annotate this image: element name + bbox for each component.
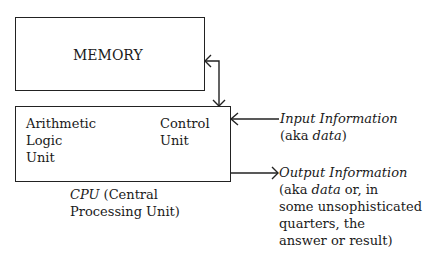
output-line1-post: or, in [341,182,379,197]
memory-box: MEMORY [15,17,205,91]
memory-cpu-connector [205,61,219,106]
control-unit-line2: Unit [160,133,189,149]
output-line1-pre: (aka [279,182,312,197]
alu-label-line2: Logic [26,133,62,149]
alu-label-line1: Arithmetic [26,116,96,132]
cpu-caption: CPU (Central [70,187,158,203]
input-note-italic: data [313,128,342,143]
input-title: Input Information [280,111,398,127]
output-line4: answer or result) [279,233,393,249]
cpu-caption-rest: (Central [99,187,158,202]
alu-label-line3: Unit [26,150,55,166]
output-line1: (aka data or, in [279,182,378,198]
input-note: (aka data) [280,128,347,144]
output-line1-italic: data [312,182,341,197]
output-line2: some unsophisticated [279,199,422,215]
input-note-post: ) [342,128,347,143]
cpu-box: Arithmetic Logic Unit Control Unit [15,106,231,182]
cpu-caption-abbr: CPU [70,187,99,202]
output-line3: quarters, the [279,216,365,232]
input-note-pre: (aka [280,128,313,143]
output-title: Output Information [279,165,407,181]
control-unit-line1: Control [160,116,210,132]
memory-label: MEMORY [73,47,143,63]
cpu-caption-line2: Processing Unit) [70,204,180,220]
